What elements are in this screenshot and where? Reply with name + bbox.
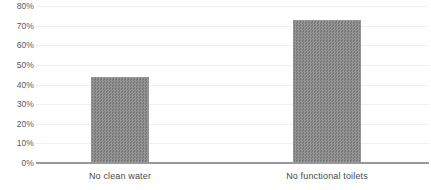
y-tick-label: 70% bbox=[0, 21, 34, 30]
category-label-no-clean-water: No clean water bbox=[58, 171, 182, 181]
bars-layer bbox=[36, 6, 429, 163]
y-tick-label: 50% bbox=[0, 60, 34, 69]
y-tick-label: 20% bbox=[0, 119, 34, 128]
y-tick-label: 30% bbox=[0, 100, 34, 109]
bar-no-functional-toilets[interactable] bbox=[293, 20, 361, 163]
category-label-no-functional-toilets: No functional toilets bbox=[265, 171, 389, 181]
y-axis: 80% 70% 60% 50% 40% 30% 20% 10% 0% bbox=[0, 0, 34, 190]
x-axis-line bbox=[36, 162, 429, 164]
y-tick-label: 40% bbox=[0, 80, 34, 89]
bar-chart: 80% 70% 60% 50% 40% 30% 20% 10% 0% No cl… bbox=[0, 0, 431, 190]
y-tick-label: 0% bbox=[0, 159, 34, 168]
y-tick-label: 10% bbox=[0, 139, 34, 148]
y-tick-label: 80% bbox=[0, 2, 34, 11]
y-tick-label: 60% bbox=[0, 41, 34, 50]
bar-no-clean-water[interactable] bbox=[91, 77, 149, 163]
x-axis-categories: No clean water No functional toilets bbox=[36, 166, 429, 190]
